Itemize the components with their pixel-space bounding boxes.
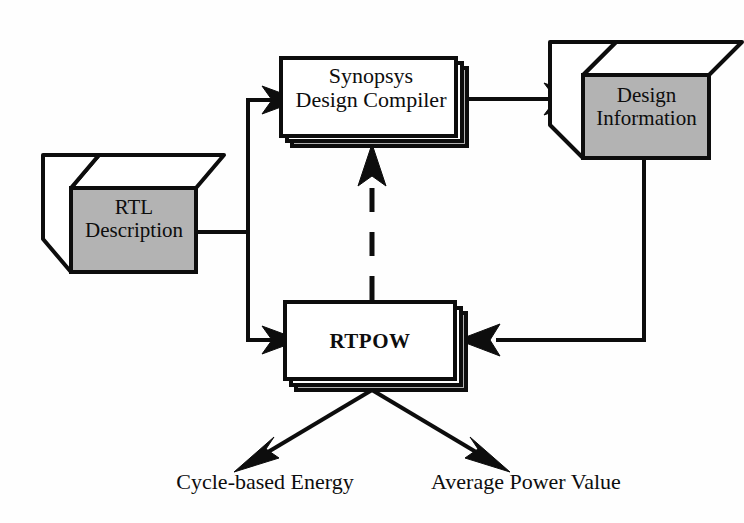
node-rtl-description[interactable] — [43, 155, 224, 272]
edge-design-information-to-rtpow — [458, 158, 644, 356]
design-info-cube-face — [583, 75, 709, 158]
edge-rtpow-to-cycle-based-energy — [234, 390, 372, 472]
rtl-cube-face — [71, 188, 196, 272]
rtpow-box-front — [285, 302, 455, 379]
node-design-information[interactable] — [550, 42, 742, 158]
diagram-canvas: RTL Description Synopsys Design Compiler… — [0, 0, 744, 523]
diagram-graphics — [0, 0, 744, 523]
node-rtpow[interactable] — [285, 302, 466, 390]
synopsys-box-front — [281, 58, 456, 136]
edge-rtpow-to-synopsys — [358, 144, 386, 300]
edge-rtpow-to-average-power-value — [372, 390, 510, 472]
node-synopsys-design-compiler[interactable] — [281, 58, 467, 146]
